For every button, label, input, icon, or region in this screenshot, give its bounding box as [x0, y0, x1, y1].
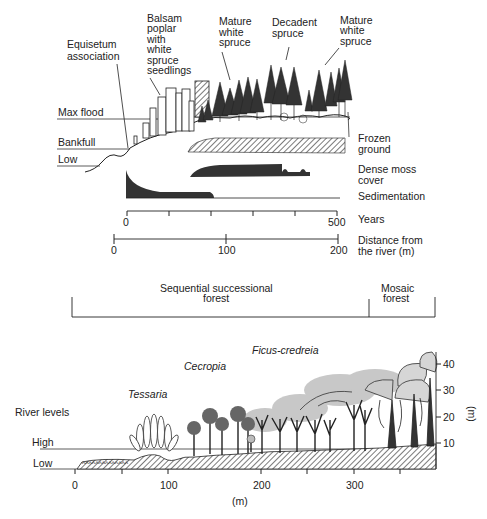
- svg-text:spruce: spruce: [340, 35, 372, 47]
- svg-text:Bankfull: Bankfull: [58, 136, 95, 148]
- svg-text:ground: ground: [358, 143, 391, 155]
- svg-text:Low: Low: [58, 153, 78, 165]
- svg-text:Years: Years: [358, 213, 384, 225]
- frozen-ground-band: [188, 138, 345, 153]
- svg-text:300: 300: [346, 479, 364, 491]
- svg-text:cover: cover: [358, 174, 384, 186]
- svg-text:River levels: River levels: [15, 406, 69, 418]
- svg-text:200: 200: [253, 479, 271, 491]
- svg-text:forest: forest: [203, 292, 229, 304]
- cecropia-trees: [187, 406, 255, 456]
- svg-text:10: 10: [443, 437, 455, 449]
- svg-text:0: 0: [72, 479, 78, 491]
- years-axis: 0 500 Years: [123, 211, 384, 228]
- top-panel: Equisetum association Balsam poplar with…: [57, 12, 425, 257]
- svg-text:30: 30: [443, 384, 455, 396]
- balsam-poplar-stand: [134, 81, 209, 144]
- svg-text:0: 0: [111, 244, 117, 256]
- svg-text:Max flood: Max flood: [58, 106, 104, 118]
- svg-text:seedlings: seedlings: [147, 64, 191, 76]
- annotation-decadent-spruce: Decadent spruce: [272, 16, 317, 60]
- bottom-x-axis: 0 100 200 300 (m): [72, 469, 400, 507]
- svg-text:Equisetum: Equisetum: [67, 38, 117, 50]
- svg-text:Sedimentation: Sedimentation: [358, 190, 425, 202]
- svg-text:High: High: [32, 436, 54, 448]
- svg-text:20: 20: [443, 411, 455, 423]
- svg-text:(m): (m): [232, 495, 248, 507]
- svg-text:spruce: spruce: [219, 36, 251, 48]
- spruce-trees: [198, 60, 352, 123]
- svg-text:100: 100: [218, 244, 236, 256]
- annotation-balsam-poplar: Balsam poplar with white spruce seedling…: [146, 12, 191, 95]
- svg-text:500: 500: [328, 216, 346, 228]
- distance-axis: 0 100 200 Distance from the river (m): [111, 234, 423, 257]
- svg-text:40: 40: [443, 358, 455, 370]
- bottom-panel: Ficus-credreia Cecropia Tessaria River l…: [15, 344, 478, 507]
- moss-cover-band: [190, 164, 310, 177]
- svg-text:Low: Low: [33, 457, 53, 469]
- svg-text:^^^^^^^^^^^^^^: ^^^^^^^^^^^^^^: [82, 460, 129, 467]
- annotation-mature-spruce-2: Mature white spruce: [325, 14, 373, 65]
- forest-type-bracket: Sequential successional forest Mosaic fo…: [72, 282, 435, 317]
- svg-text:forest: forest: [383, 292, 409, 304]
- annotation-mature-spruce-1: Mature white spruce: [218, 15, 252, 80]
- svg-text:100: 100: [160, 479, 178, 491]
- svg-text:Tessaria: Tessaria: [128, 388, 167, 400]
- svg-text:the river (m): the river (m): [358, 245, 415, 257]
- ground-profile: [77, 444, 436, 469]
- svg-text:Ficus-credreia: Ficus-credreia: [252, 344, 319, 356]
- succession-diagram: Equisetum association Balsam poplar with…: [0, 0, 487, 519]
- svg-text:Cecropia: Cecropia: [184, 360, 226, 372]
- bottom-y-axis: 10 20 30 40 (m): [436, 352, 478, 469]
- svg-text:association: association: [67, 50, 120, 62]
- svg-text:0: 0: [123, 216, 129, 228]
- svg-text:spruce: spruce: [272, 27, 304, 39]
- annotation-equisetum: Equisetum association: [67, 38, 128, 148]
- tessaria-shrubs: [128, 414, 180, 452]
- svg-text:200: 200: [330, 244, 348, 256]
- svg-text:(m): (m): [466, 406, 478, 422]
